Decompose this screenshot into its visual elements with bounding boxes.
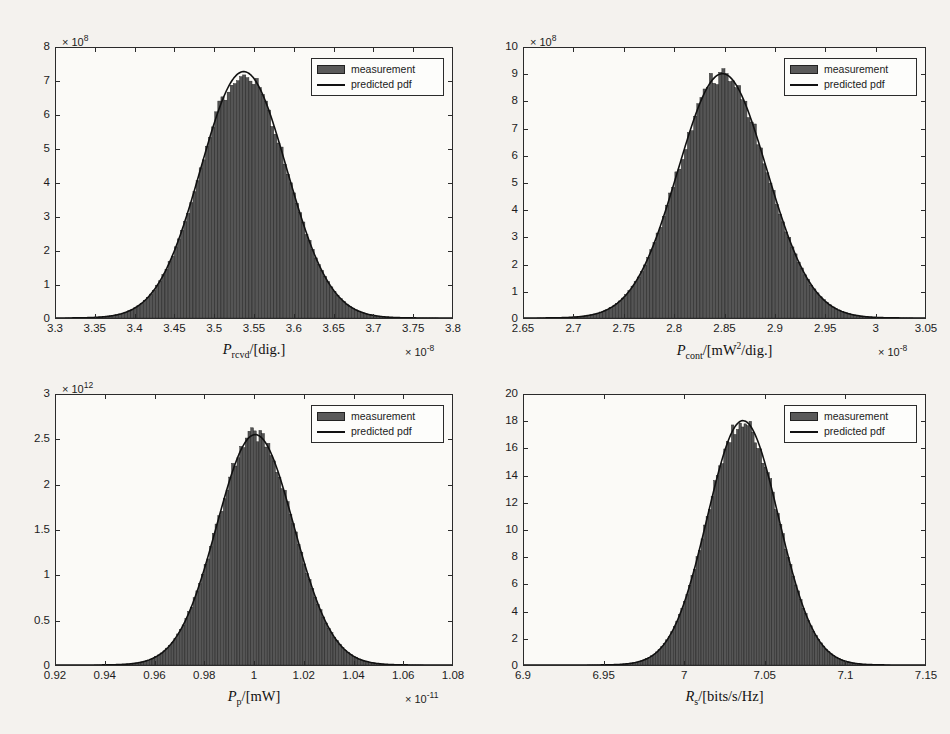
y-tick-label: 12 — [489, 497, 518, 509]
x-tick-label: 3.75 — [402, 323, 424, 335]
x-tick-mark — [174, 314, 175, 319]
y-tick-label: 1 — [489, 286, 518, 298]
y-tick-mark-right — [921, 101, 926, 102]
y-tick-mark-right — [921, 265, 926, 266]
y-tick-mark — [523, 530, 528, 531]
y-tick-mark-right — [921, 476, 926, 477]
y-tick-mark — [523, 584, 528, 585]
y-tick-label: 4 — [21, 177, 50, 189]
x-tick-label: 6.95 — [592, 670, 614, 682]
x-tick-label: 2.65 — [512, 323, 534, 335]
y-tick-label: 3 — [489, 232, 518, 244]
y-tick-mark — [55, 149, 60, 150]
y-tick-mark — [523, 503, 528, 504]
x-tick-label: 3.65 — [322, 323, 344, 335]
x-tick-mark — [155, 661, 156, 666]
y-tick-label: 8 — [489, 96, 518, 108]
x-tick-label: 2.9 — [767, 323, 783, 335]
x-tick-label: 3.5 — [206, 323, 222, 335]
x-tick-label: 3 — [872, 323, 878, 335]
legend-r-s: measurement predicted pdf — [784, 405, 917, 443]
x-tick-mark-top — [155, 394, 156, 399]
legend-entry-measurement: measurement — [317, 410, 436, 423]
x-tick-mark — [354, 661, 355, 666]
x-tick-mark-top — [573, 47, 574, 52]
y-tick-mark-right — [921, 639, 926, 640]
x-tick-label: 2.95 — [814, 323, 836, 335]
x-tick-mark — [135, 314, 136, 319]
x-tick-mark — [254, 661, 255, 666]
y-tick-mark — [523, 101, 528, 102]
legend-label-measurement: measurement — [351, 64, 415, 75]
pdf-line-swatch-icon — [317, 84, 345, 86]
y-tick-mark — [55, 183, 60, 184]
x-tick-mark-top — [845, 394, 846, 399]
y-tick-label: 2 — [21, 245, 50, 257]
x-tick-label: 7 — [681, 670, 687, 682]
x-tick-label: 7.15 — [915, 670, 937, 682]
y-tick-label: 6 — [489, 150, 518, 162]
legend-label-predicted-pdf: predicted pdf — [351, 79, 412, 90]
y-tick-mark-right — [921, 129, 926, 130]
histogram-bars — [66, 75, 439, 318]
y-tick-label: 4 — [489, 606, 518, 618]
x-tick-mark-top — [105, 394, 106, 399]
x-tick-mark — [725, 314, 726, 319]
x-exponent-p-rcvd: × 10-8 — [405, 343, 434, 358]
y-tick-label: 16 — [489, 443, 518, 455]
x-tick-mark — [334, 314, 335, 319]
x-tick-label: 1 — [251, 670, 257, 682]
y-tick-label: 3 — [21, 388, 50, 400]
y-tick-mark — [523, 612, 528, 613]
y-tick-mark — [55, 217, 60, 218]
x-tick-label: 0.94 — [94, 670, 116, 682]
legend-entry-predicted-pdf: predicted pdf — [317, 425, 436, 438]
x-tick-label: 6.9 — [515, 670, 531, 682]
y-tick-mark-right — [921, 557, 926, 558]
legend-entry-measurement: measurement — [317, 63, 436, 76]
legend-p-cont: measurement predicted pdf — [784, 58, 917, 96]
y-tick-label: 1 — [21, 279, 50, 291]
y-tick-mark — [523, 183, 528, 184]
y-tick-mark-right — [921, 183, 926, 184]
x-tick-label: 0.92 — [44, 670, 66, 682]
x-tick-mark-top — [254, 47, 255, 52]
x-tick-label: 3.7 — [365, 323, 381, 335]
x-tick-label: 0.98 — [193, 670, 215, 682]
x-tick-label: 7.05 — [754, 670, 776, 682]
y-tick-mark-right — [921, 210, 926, 211]
legend-label-measurement: measurement — [351, 411, 415, 422]
y-tick-label: 18 — [489, 415, 518, 427]
measurement-swatch-icon — [790, 412, 818, 421]
y-exponent-p-p: × 1012 — [62, 380, 93, 395]
y-tick-mark — [55, 439, 60, 440]
y-tick-label: 2.5 — [21, 434, 50, 446]
x-tick-mark — [674, 314, 675, 319]
y-tick-label: 4 — [489, 204, 518, 216]
y-tick-mark-right — [448, 439, 453, 440]
y-tick-label: 10 — [489, 524, 518, 536]
y-tick-mark-right — [921, 503, 926, 504]
y-tick-mark — [55, 621, 60, 622]
x-axis-title-p-p: Pp/[mW] — [228, 688, 281, 707]
legend-entry-predicted-pdf: predicted pdf — [790, 78, 909, 91]
x-tick-label: 3.05 — [915, 323, 937, 335]
histogram-bars — [537, 69, 913, 318]
x-tick-mark — [413, 314, 414, 319]
x-tick-mark-top — [725, 47, 726, 52]
y-tick-label: 6 — [21, 109, 50, 121]
y-tick-label: 5 — [21, 143, 50, 155]
x-tick-mark-top — [825, 47, 826, 52]
x-tick-mark-top — [624, 47, 625, 52]
x-tick-mark — [825, 314, 826, 319]
y-tick-mark — [55, 285, 60, 286]
y-tick-label: 0.5 — [21, 615, 50, 627]
y-tick-mark — [523, 74, 528, 75]
y-tick-mark — [55, 575, 60, 576]
y-tick-mark-right — [448, 81, 453, 82]
legend-entry-predicted-pdf: predicted pdf — [790, 425, 909, 438]
x-tick-label: 3.55 — [243, 323, 265, 335]
y-tick-mark — [523, 129, 528, 130]
x-tick-mark — [254, 314, 255, 319]
x-tick-mark-top — [354, 394, 355, 399]
